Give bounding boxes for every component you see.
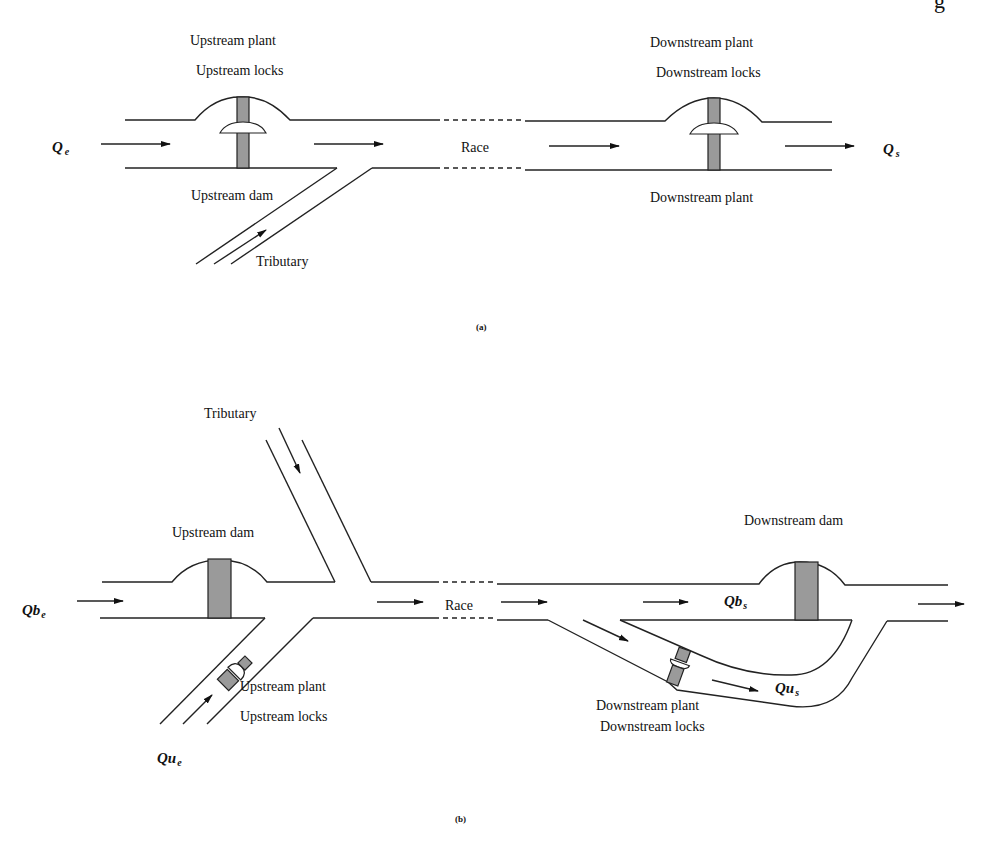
figure-b: Tributary Upstream dam Race Downstream d… [22,406,964,824]
label-downstream-locks: Downstream locks [656,65,761,80]
upstream-dam-icon [208,559,231,618]
tributary-bank-right [302,440,371,582]
label-tributary: Tributary [256,254,308,269]
caption-a: (a) [476,322,487,332]
tributary-bank-left [196,168,337,264]
caption-b: (b) [455,814,466,824]
symbol-q-s: Qs [883,141,900,159]
tributary-bank-right [231,168,372,264]
label-upstream-plant: Upstream plant [240,679,326,694]
downstream-plant-icon [690,123,738,134]
symbol-qb-e: Qbe [22,602,46,620]
label-upstream-locks: Upstream locks [240,709,327,724]
bypass-inner [620,620,852,675]
label-downstream-dam: Downstream dam [744,513,843,528]
label-downstream-locks: Downstream locks [600,719,705,734]
label-downstream-plant-top: Downstream plant [650,35,753,50]
bypass-flow-arrow [712,680,758,691]
symbol-qu-s: Qus [775,680,799,698]
tributary-flow-arrow [279,428,300,473]
symbol-q-e: Qe [52,139,70,157]
upper-bank-a-left [125,97,435,120]
label-upstream-locks: Upstream locks [196,63,283,78]
downstream-plant-lock-icon [663,646,694,688]
symbol-qb-s: Qbs [724,593,747,611]
bypass-flow-arrow [583,620,628,641]
river-system-diagram: g Upstream plant Upstream locks Upstream… [0,0,988,841]
label-upstream-dam: Upstream dam [172,525,254,540]
bypass-outer [548,620,887,707]
tributary-bank-left [266,440,335,582]
upper-bank-b-right [497,562,948,585]
label-tributary: Tributary [204,406,256,421]
header-fragment: g [934,0,945,13]
label-upstream-plant: Upstream plant [190,33,276,48]
upper-bank-a-right [525,98,832,122]
up-channel-flow-arrow [183,695,212,724]
label-downstream-plant-bottom: Downstream plant [650,190,753,205]
label-race: Race [461,140,489,155]
upstream-plant-icon [220,122,266,133]
downstream-dam-icon [795,562,818,620]
label-downstream-plant: Downstream plant [596,698,699,713]
figure-a: Upstream plant Upstream locks Upstream d… [52,33,900,332]
symbol-qu-e: Que [157,750,182,768]
label-upstream-dam: Upstream dam [191,188,273,203]
label-race: Race [445,598,473,613]
